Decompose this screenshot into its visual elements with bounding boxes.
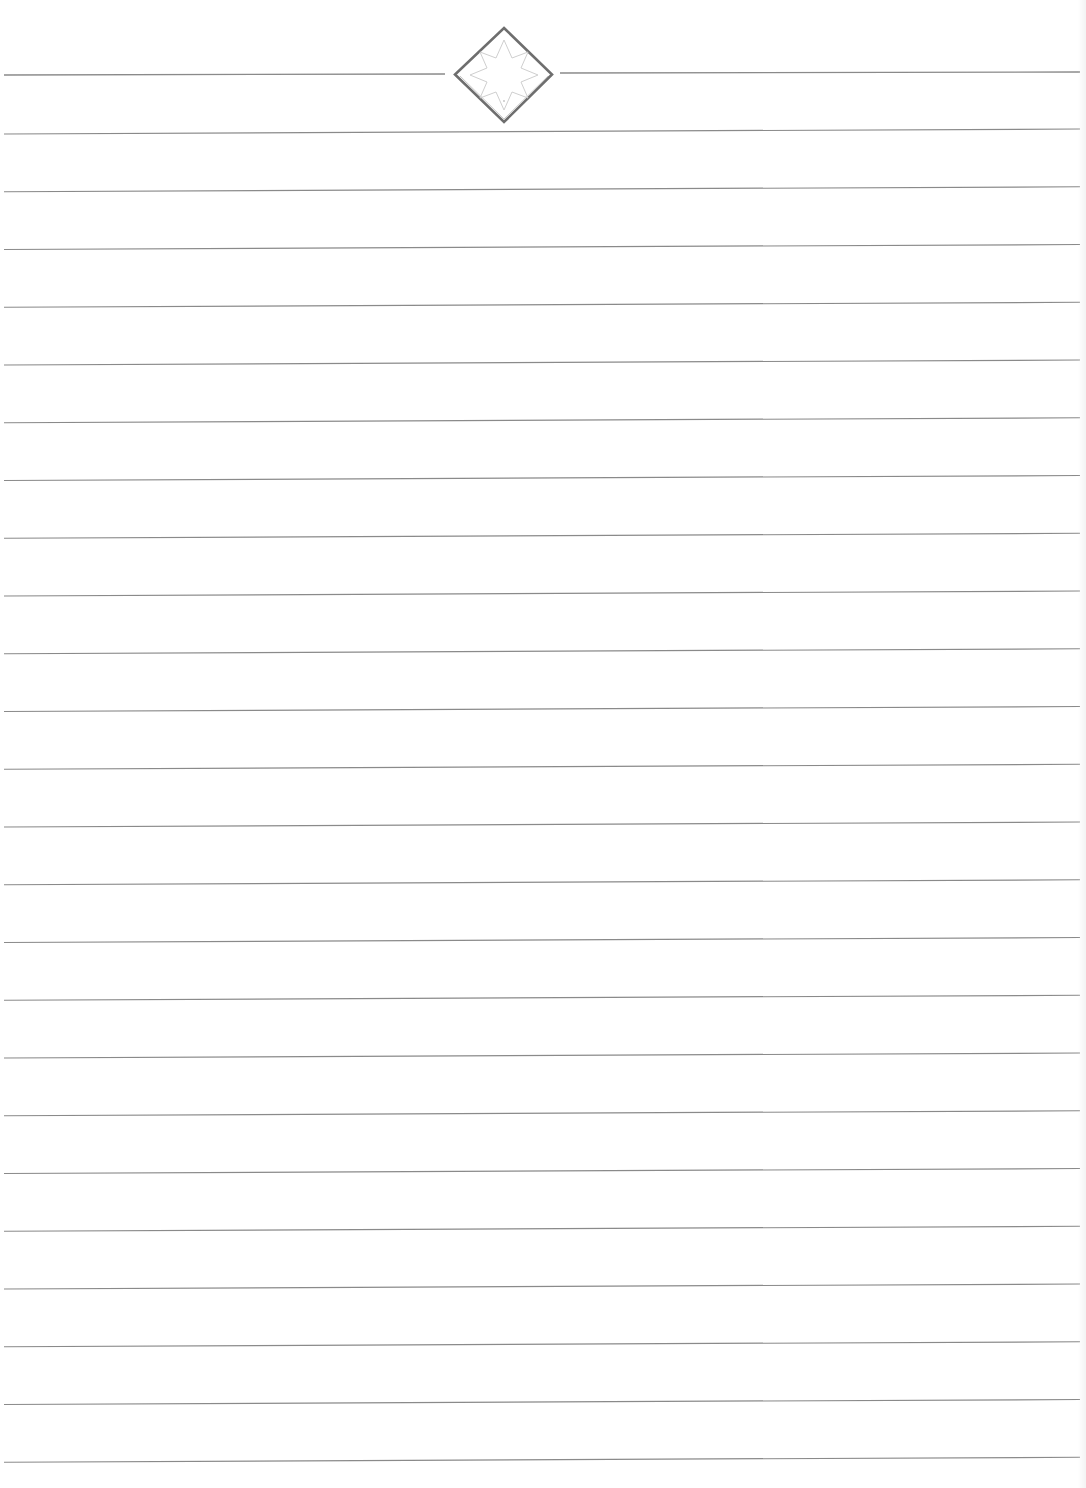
ruled-line [4,1169,1080,1174]
ruled-line [4,764,1080,769]
page-header [4,28,1080,122]
ruled-line [4,707,1080,712]
header-line-left [4,74,445,75]
ruled-line [4,880,1080,885]
header-line-right [560,72,1080,73]
ruled-line [4,1111,1080,1116]
ruled-line [4,1342,1080,1347]
ruled-line [4,360,1080,365]
notebook-page [0,0,1086,1488]
ruled-line [4,1053,1080,1058]
ruled-line [4,476,1080,481]
ruled-line [4,822,1080,827]
ruled-line [4,187,1080,192]
ruled-line [4,1226,1080,1231]
ruled-line [4,245,1080,250]
ruled-line [4,1457,1080,1462]
ruled-line [4,649,1080,654]
ruled-line [4,995,1080,1000]
ruled-line [4,1400,1080,1405]
diamond-star-emblem-icon [455,28,552,122]
ruled-line [4,418,1080,423]
ruled-line [4,1284,1080,1289]
ruled-lines [0,0,1086,1488]
ruled-line [4,302,1080,307]
ruled-line [4,129,1080,134]
ruled-line [4,533,1080,538]
rule-lines-group [4,129,1080,1462]
ruled-line [4,591,1080,596]
ruled-line [4,938,1080,943]
